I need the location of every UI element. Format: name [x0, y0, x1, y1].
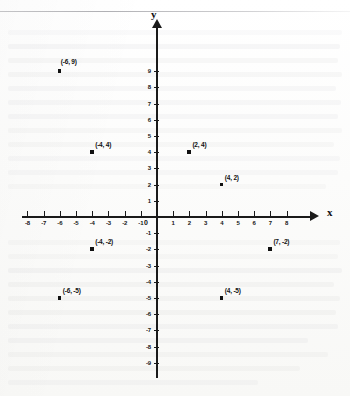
y-axis-tick-label: -6	[138, 310, 151, 318]
x-axis-tick	[238, 211, 239, 216]
point-coordinate-label: (-4, -2)	[95, 238, 113, 245]
y-axis-tick	[154, 201, 159, 202]
x-axis-tick-label: -4	[85, 220, 99, 226]
y-axis-tick	[154, 185, 159, 186]
y-axis-arrow-icon	[152, 19, 162, 28]
x-axis-tick	[108, 211, 109, 216]
y-axis-tick	[154, 347, 159, 348]
x-axis-tick	[141, 211, 142, 216]
y-axis-tick	[154, 363, 159, 364]
x-axis-tick-label: -7	[37, 220, 51, 226]
x-axis-tick	[92, 211, 93, 216]
x-axis-tick	[189, 211, 190, 216]
x-axis-tick	[76, 211, 77, 216]
point-coordinate-label: (4, 2)	[225, 174, 239, 181]
coordinate-plane: x y 0 -8-7-6-5-4-3-2-112345678 987654321…	[0, 0, 350, 396]
x-axis-line	[22, 216, 312, 218]
x-axis-tick-label: 4	[215, 220, 229, 226]
y-axis-tick	[154, 168, 159, 169]
x-axis-tick-label: -2	[118, 220, 132, 226]
point-marker	[220, 296, 224, 300]
y-axis-tick-label: 2	[138, 181, 151, 189]
x-axis-tick	[173, 211, 174, 216]
point-coordinate-label: (-6, 9)	[61, 58, 77, 65]
y-axis-tick-label: 5	[138, 132, 151, 140]
y-axis-tick-label: -2	[138, 245, 151, 253]
x-axis-tick-label: 3	[199, 220, 213, 226]
y-axis-tick-label: 9	[138, 67, 151, 75]
x-axis-tick	[206, 211, 207, 216]
point-marker	[220, 183, 224, 187]
y-axis-tick-label: -8	[138, 343, 151, 351]
point-coordinate-label: (-4, 4)	[95, 141, 111, 148]
x-axis-tick	[44, 211, 45, 216]
x-axis-arrow-icon	[310, 211, 319, 221]
y-axis-line	[156, 26, 158, 378]
y-axis-tick-label: -3	[138, 262, 151, 270]
y-axis-tick	[154, 314, 159, 315]
x-axis-tick-label: 1	[166, 220, 180, 226]
x-axis-label: x	[327, 206, 333, 218]
x-axis-tick-label: 6	[247, 220, 261, 226]
x-axis-tick-label: -1	[134, 220, 148, 226]
x-axis-tick-label: -8	[20, 220, 34, 226]
y-axis-tick	[154, 249, 159, 250]
x-axis-tick	[270, 211, 271, 216]
y-axis-tick	[154, 330, 159, 331]
x-axis-tick-label: 7	[263, 220, 277, 226]
point-coordinate-label: (4, -5)	[225, 287, 241, 294]
y-axis-tick	[154, 120, 159, 121]
point-marker	[268, 247, 272, 251]
y-axis-tick	[154, 71, 159, 72]
x-axis-tick-label: 2	[182, 220, 196, 226]
x-axis-tick	[254, 211, 255, 216]
point-marker	[187, 150, 191, 154]
point-coordinate-label: (-6, -5)	[63, 287, 81, 294]
y-axis-tick-label: -7	[138, 326, 151, 334]
y-axis-tick-label: -1	[138, 229, 151, 237]
x-axis-tick-label: 5	[231, 220, 245, 226]
x-axis-tick	[125, 211, 126, 216]
y-axis-tick-label: 1	[138, 197, 151, 205]
y-axis-tick	[154, 104, 159, 105]
y-axis-tick-label: 7	[138, 100, 151, 108]
y-axis-tick-label: 6	[138, 116, 151, 124]
x-axis-tick-label: -6	[53, 220, 67, 226]
x-axis-tick-label: 8	[280, 220, 294, 226]
point-marker	[58, 296, 62, 300]
y-axis-tick	[154, 87, 159, 88]
point-marker	[90, 247, 94, 251]
y-axis-tick-label: -4	[138, 278, 151, 286]
x-axis-tick	[287, 211, 288, 216]
x-axis-tick	[27, 211, 28, 216]
y-axis-tick-label: 8	[138, 83, 151, 91]
point-marker	[58, 69, 62, 73]
y-axis-label: y	[151, 8, 157, 20]
point-marker	[90, 150, 94, 154]
y-axis-tick	[154, 282, 159, 283]
y-axis-tick-label: 4	[138, 148, 151, 156]
y-axis-tick	[154, 233, 159, 234]
y-axis-tick-label: -9	[138, 359, 151, 367]
point-coordinate-label: (7, -2)	[273, 238, 289, 245]
y-axis-tick	[154, 266, 159, 267]
x-axis-tick-label: -5	[69, 220, 83, 226]
y-axis-tick-label: 3	[138, 164, 151, 172]
y-axis-tick	[154, 136, 159, 137]
x-axis-tick-label: -3	[101, 220, 115, 226]
y-axis-tick-label: -5	[138, 294, 151, 302]
y-axis-tick	[154, 152, 159, 153]
y-axis-tick	[154, 298, 159, 299]
point-coordinate-label: (2, 4)	[192, 141, 206, 148]
x-axis-tick	[60, 211, 61, 216]
x-axis-tick	[222, 211, 223, 216]
